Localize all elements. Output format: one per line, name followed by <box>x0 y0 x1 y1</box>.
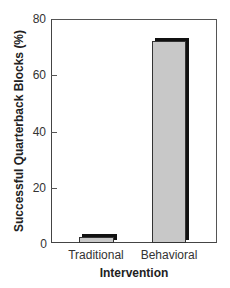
x-axis-title: Intervention <box>51 266 217 280</box>
y-tick-label-20: 20 <box>26 182 46 194</box>
x-tick-label-traditional: Traditional <box>56 248 136 262</box>
bar-traditional <box>79 237 114 243</box>
bar-behavioral <box>152 41 186 243</box>
y-tick-label-0: 0 <box>27 238 47 250</box>
plot-area <box>51 19 217 243</box>
bar-behavioral-fill <box>152 41 186 243</box>
y-axis-title: Successful Quarterback Blocks (%) <box>12 30 26 232</box>
y-tick-40 <box>51 132 57 133</box>
y-tick-20 <box>51 188 57 189</box>
y-tick-60 <box>51 75 57 76</box>
y-tick-label-40: 40 <box>26 126 46 138</box>
y-tick-label-80: 80 <box>26 13 46 25</box>
x-tick-label-behavioral: Behavioral <box>129 248 209 262</box>
y-tick-label-60: 60 <box>26 69 46 81</box>
bar-traditional-fill <box>79 237 114 243</box>
